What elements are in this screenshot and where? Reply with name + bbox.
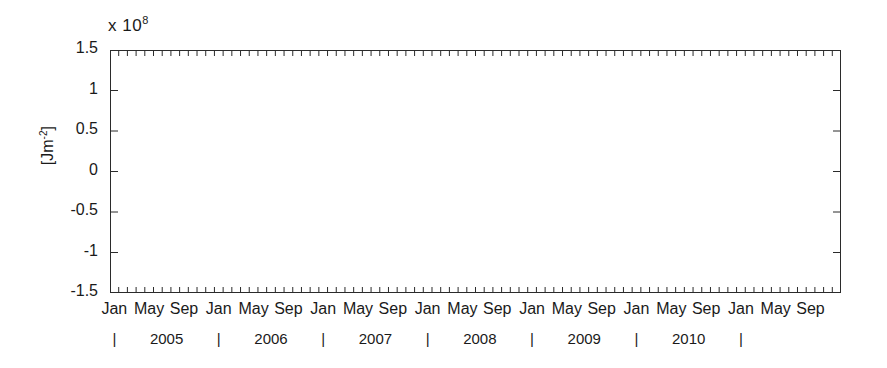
year-separator-tick: |: [212, 330, 226, 347]
chart-figure: x 108 [Jm-2] 1.510.50-0.5-1-1.5 JanMaySe…: [0, 0, 887, 368]
year-separator-tick: |: [316, 330, 330, 347]
x-axis-year-label: 2006: [241, 330, 301, 347]
year-separator-tick: |: [629, 330, 643, 347]
y-tick-label: -0.5: [46, 201, 98, 219]
y-tick-label: 1.5: [46, 39, 98, 57]
exponent-power: 8: [142, 14, 149, 26]
year-separator-tick: |: [421, 330, 435, 347]
year-separator-tick: |: [525, 330, 539, 347]
x-tick-label-month: Sep: [783, 300, 839, 318]
x-axis-year-label: 2005: [137, 330, 197, 347]
y-tick-label: -1.5: [46, 282, 98, 300]
y-axis-exponent-label: x 108: [108, 14, 149, 36]
year-separator-tick: |: [107, 330, 121, 347]
axis-tick-marks-layer: [110, 50, 841, 293]
y-tick-label: 0.5: [46, 120, 98, 138]
x-axis-year-label: 2009: [554, 330, 614, 347]
x-axis-year-label: 2007: [345, 330, 405, 347]
x-axis-year-label: 2010: [659, 330, 719, 347]
plot-area: [110, 50, 841, 293]
y-tick-label: 1: [46, 80, 98, 98]
x-axis-year-label: 2008: [450, 330, 510, 347]
y-tick-label: -1: [46, 242, 98, 260]
exponent-prefix: x 10: [108, 16, 142, 35]
y-tick-label: 0: [46, 161, 98, 179]
year-separator-tick: |: [734, 330, 748, 347]
